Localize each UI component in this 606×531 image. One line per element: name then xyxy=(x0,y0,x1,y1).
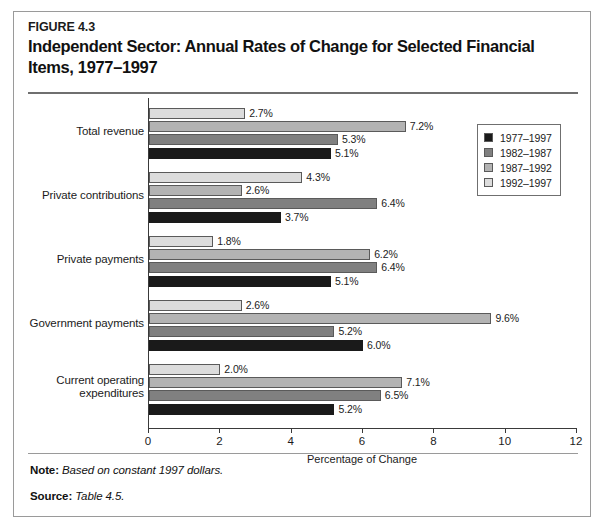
bar-value-label: 6.2% xyxy=(374,248,398,260)
category-label: Current operating expenditures xyxy=(14,374,144,401)
x-axis-tick-label: 0 xyxy=(145,435,151,447)
bar-value-label: 1.8% xyxy=(217,235,241,247)
x-axis-tick xyxy=(291,428,292,433)
bar-value-label: 3.7% xyxy=(285,211,309,223)
chart-bar xyxy=(149,276,331,287)
note-line: Note: Based on constant 1997 dollars. xyxy=(30,464,223,476)
x-axis-tick xyxy=(219,428,220,433)
bar-value-label: 7.2% xyxy=(410,120,434,132)
figure-frame: FIGURE 4.3 Independent Sector: Annual Ra… xyxy=(13,11,591,517)
chart-bar xyxy=(149,326,334,337)
x-axis-tick-label: 2 xyxy=(216,435,222,447)
chart-bar xyxy=(149,148,331,159)
bar-value-label: 6.4% xyxy=(381,261,405,273)
chart-bar xyxy=(149,134,338,145)
chart-bar xyxy=(149,121,406,132)
legend-label: 1992–1997 xyxy=(500,177,552,189)
x-axis-tick xyxy=(362,428,363,433)
chart-bar xyxy=(149,172,302,183)
note-label: Note: xyxy=(30,464,59,476)
source-text: Table 4.5. xyxy=(75,490,124,502)
chart-bar xyxy=(149,404,334,415)
chart-bar xyxy=(149,249,370,260)
x-axis-tick xyxy=(433,428,434,433)
bar-value-label: 2.6% xyxy=(246,299,270,311)
chart-plot-area: Total revenuePrivate contributionsPrivat… xyxy=(14,98,590,450)
figure-title: Independent Sector: Annual Rates of Chan… xyxy=(28,36,548,78)
category-axis-labels: Total revenuePrivate contributionsPrivat… xyxy=(14,98,144,428)
bar-value-label: 2.6% xyxy=(246,184,270,196)
category-label: Total revenue xyxy=(14,125,144,139)
legend-swatch-icon xyxy=(484,178,493,187)
legend-item: 1982–1987 xyxy=(484,145,554,160)
chart-bar xyxy=(149,185,242,196)
chart-bar xyxy=(149,364,220,375)
category-label: Private payments xyxy=(14,253,144,267)
figure-header: FIGURE 4.3 Independent Sector: Annual Ra… xyxy=(28,20,548,78)
legend-label: 1987–1992 xyxy=(500,162,552,174)
bar-value-label: 6.4% xyxy=(381,197,405,209)
chart-legend: 1977–19971982–19871987–19921992–1997 xyxy=(477,124,561,196)
bar-value-label: 5.2% xyxy=(338,403,362,415)
legend-item: 1977–1997 xyxy=(484,130,554,145)
bar-value-label: 5.1% xyxy=(335,275,359,287)
chart-bar xyxy=(149,377,402,388)
bar-value-label: 5.1% xyxy=(335,147,359,159)
legend-label: 1977–1997 xyxy=(500,132,552,144)
category-label: Private contributions xyxy=(14,189,144,203)
chart-bar xyxy=(149,340,363,351)
source-line: Source: Table 4.5. xyxy=(30,490,124,502)
legend-swatch-icon xyxy=(484,133,493,142)
bar-value-label: 6.5% xyxy=(385,389,409,401)
x-axis-tick-label: 8 xyxy=(430,435,436,447)
x-axis-tick-label: 10 xyxy=(498,435,511,447)
legend-label: 1982–1987 xyxy=(500,147,552,159)
bar-value-label: 9.6% xyxy=(495,312,519,324)
legend-swatch-icon xyxy=(484,148,493,157)
category-label: Government payments xyxy=(14,317,144,331)
bar-value-label: 7.1% xyxy=(406,376,430,388)
x-axis-tick xyxy=(148,428,149,433)
chart-bar xyxy=(149,236,213,247)
chart-bar xyxy=(149,300,242,311)
chart-bar xyxy=(149,262,377,273)
figure-page: FIGURE 4.3 Independent Sector: Annual Ra… xyxy=(0,0,606,531)
x-axis-tick-label: 4 xyxy=(287,435,293,447)
legend-item: 1987–1992 xyxy=(484,160,554,175)
chart-bar xyxy=(149,212,281,223)
legend-item: 1992–1997 xyxy=(484,175,554,190)
figure-number: FIGURE 4.3 xyxy=(28,20,548,35)
x-axis-tick-label: 6 xyxy=(359,435,365,447)
bar-value-label: 4.3% xyxy=(306,171,330,183)
x-axis-tick xyxy=(505,428,506,433)
legend-swatch-icon xyxy=(484,163,493,172)
bar-value-label: 5.3% xyxy=(342,133,366,145)
chart-bar xyxy=(149,108,245,119)
bar-value-label: 2.0% xyxy=(224,363,248,375)
chart-bar xyxy=(149,390,381,401)
source-label: Source: xyxy=(30,490,72,502)
bar-value-label: 5.2% xyxy=(338,325,362,337)
footer-divider xyxy=(28,453,578,454)
bar-value-label: 6.0% xyxy=(367,339,391,351)
header-divider xyxy=(28,92,578,94)
x-axis-tick xyxy=(576,428,577,433)
x-axis-tick-label: 12 xyxy=(570,435,583,447)
chart-bar xyxy=(149,198,377,209)
bar-value-label: 2.7% xyxy=(249,107,273,119)
note-text: Based on constant 1997 dollars. xyxy=(62,464,223,476)
chart-bar xyxy=(149,313,491,324)
